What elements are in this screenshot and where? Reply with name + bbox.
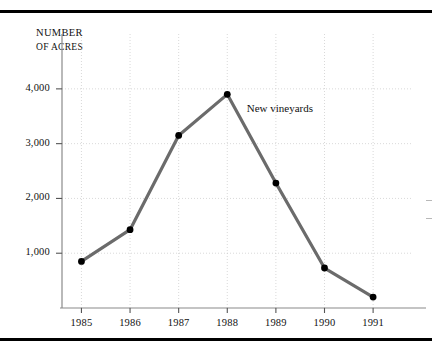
data-point-1986 [127, 226, 134, 233]
y-tick-label-1000: 1,000 [10, 246, 50, 257]
x-tick-label-1989: 1989 [253, 317, 299, 328]
figure-page: NUMBER OF ACRES 1,0002,0003,0004,000 198… [0, 0, 432, 351]
axis-ticks [56, 89, 373, 313]
axis-lines [60, 34, 426, 308]
x-tick-label-1990: 1990 [302, 317, 348, 328]
top-rule [0, 10, 432, 13]
series-markers [78, 91, 376, 300]
y-tick-label-3000: 3,000 [10, 137, 50, 148]
x-tick-label-1991: 1991 [350, 317, 396, 328]
data-point-1987 [175, 132, 182, 139]
x-tick-label-1985: 1985 [58, 317, 104, 328]
data-point-1991 [370, 294, 377, 301]
x-tick-label-1986: 1986 [107, 317, 153, 328]
vertical-gridlines [81, 34, 373, 308]
data-point-1989 [272, 180, 279, 187]
y-tick-label-4000: 4,000 [10, 82, 50, 93]
line-chart: NUMBER OF ACRES 1,0002,0003,0004,000 198… [0, 16, 432, 336]
data-point-1990 [321, 265, 328, 272]
data-point-1988 [224, 91, 231, 98]
x-tick-label-1988: 1988 [204, 317, 250, 328]
plot-area [0, 16, 432, 336]
x-tick-label-1987: 1987 [156, 317, 202, 328]
bottom-rule [0, 338, 432, 341]
y-tick-label-2000: 2,000 [10, 191, 50, 202]
data-point-1985 [78, 258, 85, 265]
series-annotation-label: New vineyards [247, 102, 313, 114]
